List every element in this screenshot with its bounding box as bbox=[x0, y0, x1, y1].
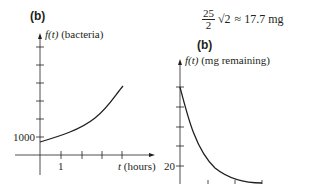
left-chart bbox=[15, 33, 155, 175]
formula-radical: √2 bbox=[218, 12, 231, 27]
left-x-tick-label: 1 bbox=[58, 160, 64, 172]
left-part-label: (b) bbox=[30, 9, 45, 23]
right-y-axis-label: f(t) (mg remaining) bbox=[185, 54, 270, 66]
right-y-axis-arrow-icon bbox=[178, 59, 182, 65]
left-x-axis-arrow-icon bbox=[149, 153, 155, 157]
left-y-tick-label: 1000 bbox=[13, 131, 35, 143]
formula-approx: ≈ 17.7 mg bbox=[235, 12, 284, 27]
left-y-axis-label: f(t) (bacteria) bbox=[45, 28, 103, 40]
right-chart bbox=[176, 59, 262, 184]
right-x-ticks bbox=[208, 180, 262, 184]
decay-curve bbox=[180, 87, 262, 183]
right-part-label: (b) bbox=[197, 38, 212, 52]
growth-curve bbox=[40, 86, 123, 142]
right-y-tick-label: 20 bbox=[164, 160, 175, 172]
left-x-axis-label: t (hours) bbox=[118, 160, 156, 172]
formula-fraction: 25 2 bbox=[202, 8, 215, 31]
formula-denominator: 2 bbox=[206, 20, 212, 31]
formula: 25 2 √2 ≈ 17.7 mg bbox=[202, 8, 284, 31]
left-y-axis-arrow-icon bbox=[38, 33, 42, 39]
